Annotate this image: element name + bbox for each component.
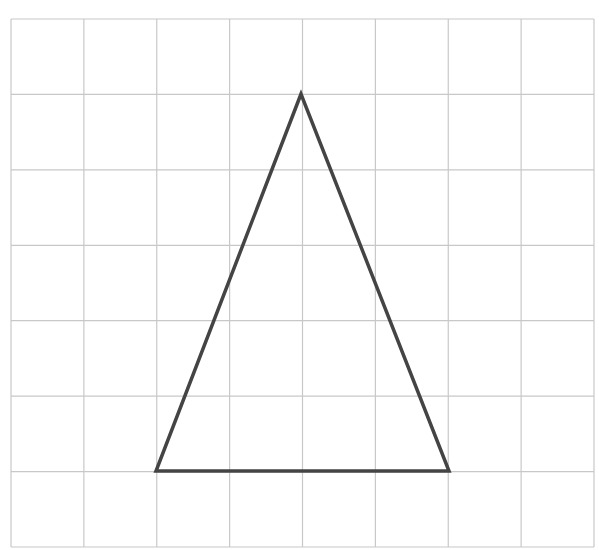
grid-diagram xyxy=(0,0,599,550)
